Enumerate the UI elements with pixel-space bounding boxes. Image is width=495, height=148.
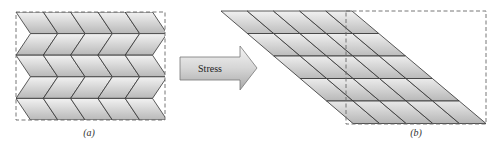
panel-b [221, 11, 486, 124]
stress-arrow-label: Stress [198, 63, 222, 74]
panel-b-label: (b) [410, 127, 422, 139]
panel-a-label: (a) [83, 127, 95, 139]
stress-shear-diagram: (a) Stress (b) [0, 0, 495, 148]
panel-a [16, 12, 167, 120]
stress-arrow: Stress [180, 46, 257, 90]
